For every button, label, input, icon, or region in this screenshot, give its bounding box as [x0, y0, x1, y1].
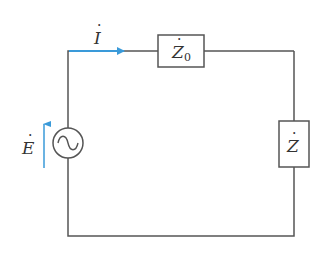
- wire-bottom: [68, 158, 294, 236]
- source-label: E ·: [21, 127, 35, 158]
- svg-text:·: ·: [97, 17, 101, 33]
- svg-text:·: ·: [28, 127, 32, 143]
- impedance-z: Z ·: [279, 121, 309, 167]
- svg-text:·: ·: [292, 125, 296, 141]
- wires: [68, 51, 294, 236]
- ac-source: [53, 128, 83, 158]
- impedance-z0: Z 0 ·: [158, 31, 204, 67]
- circuit-diagram: I · Z 0 · Z · E ·: [0, 0, 333, 253]
- current-label: I ·: [93, 17, 101, 48]
- svg-text:0: 0: [184, 51, 191, 64]
- svg-text:·: ·: [177, 31, 181, 47]
- wire-top-left: [68, 51, 158, 128]
